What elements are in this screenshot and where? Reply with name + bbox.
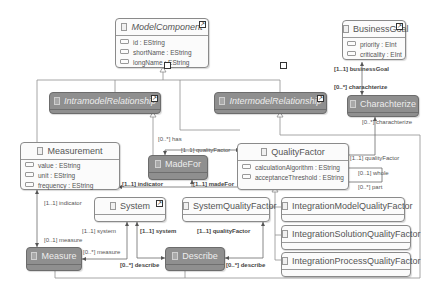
edge-label: [0..*] charachterize — [362, 119, 412, 125]
class-icon — [110, 202, 116, 210]
class-name: Measurement — [47, 146, 102, 156]
class-name: IntegrationProcessQualityFactor — [292, 256, 421, 266]
attribute-icon — [347, 41, 356, 46]
attribute-icon — [120, 49, 129, 54]
class-measurement[interactable]: Measurement value : EString unit : EStri… — [20, 142, 120, 190]
class-name: System — [120, 201, 150, 211]
edge-label: [0..*] describe — [226, 262, 265, 268]
edge-label: [1..1] indicator — [44, 200, 82, 206]
edge-label: [0..*] part — [358, 184, 382, 190]
class-icon — [282, 257, 288, 265]
class-header: Measure — [27, 248, 81, 265]
attribute-icon — [120, 39, 129, 44]
class-header: IntermodelRelationship ↗ — [215, 93, 326, 110]
attribute[interactable]: id : EString — [120, 38, 204, 48]
edge-label: [1..1] businessGoal — [334, 66, 389, 72]
class-integration-solution-quality-factor[interactable]: IntegrationSolutionQualityFactor — [281, 225, 411, 250]
attribute-icon — [242, 174, 251, 179]
attribute-icon — [25, 182, 34, 187]
class-icon — [219, 97, 225, 105]
attribute[interactable]: longName : EString — [120, 58, 204, 68]
attribute-icon — [25, 162, 34, 167]
class-name: SystemQualityFactor — [193, 201, 277, 211]
class-name: IntermodelRelationship — [229, 96, 321, 106]
class-icon — [54, 97, 60, 105]
class-header: IntegrationModelQualityFactor — [282, 198, 404, 215]
class-header: SystemQualityFactor — [183, 198, 269, 215]
external-link-icon[interactable] — [164, 62, 171, 69]
attribute-icon — [242, 164, 251, 169]
attribute[interactable]: frequency : EString — [25, 181, 115, 191]
edge-label: [1..1] indicator — [122, 181, 163, 187]
external-link-icon[interactable]: ↗ — [156, 200, 163, 207]
class-name: Describe — [182, 251, 218, 261]
external-link-icon[interactable] — [280, 62, 287, 69]
external-link-icon[interactable]: ↗ — [151, 95, 158, 102]
class-header: Describe — [166, 248, 224, 265]
external-link-icon[interactable]: ↗ — [199, 21, 206, 28]
class-icon — [37, 147, 43, 155]
class-header: BusinessGoal ↗ — [343, 21, 405, 38]
class-icon — [261, 148, 267, 156]
class-name: MadeFor — [165, 159, 201, 169]
class-measure[interactable]: Measure — [26, 247, 82, 271]
class-header: QualityFactor — [238, 144, 348, 161]
class-name: ModelComponent — [131, 22, 202, 32]
edge-label: [1..1] system — [140, 228, 176, 234]
attribute-icon — [25, 172, 34, 177]
attribute-icon — [120, 59, 129, 64]
edge-label: [1..1] madeFor — [193, 181, 234, 187]
class-header: IntramodelRelationship ↗ — [50, 93, 160, 110]
class-header: IntegrationProcessQualityFactor — [282, 253, 410, 270]
class-name: Measure — [41, 251, 76, 261]
external-link-icon[interactable]: ↗ — [396, 23, 403, 30]
edge-label: [0..*] has — [158, 136, 182, 142]
attribute[interactable]: unit : EString — [25, 171, 115, 181]
class-header: ModelComponent ↗ — [116, 19, 208, 36]
class-intramodel-relationship[interactable]: IntramodelRelationship ↗ — [49, 92, 161, 114]
attribute-icon — [347, 51, 356, 56]
class-business-goal[interactable]: BusinessGoal ↗ priority : EInt criticali… — [342, 20, 406, 60]
attribute[interactable]: calculationAlgorithm : EString — [242, 163, 344, 173]
class-name: IntramodelRelationship — [64, 96, 156, 106]
class-icon — [343, 25, 349, 33]
class-icon — [350, 100, 356, 108]
class-intermodel-relationship[interactable]: IntermodelRelationship ↗ — [214, 92, 327, 114]
class-made-for[interactable]: MadeFor — [148, 155, 208, 180]
external-link-icon[interactable]: ↗ — [317, 95, 324, 102]
class-charachterize[interactable]: Charachterize — [347, 95, 419, 117]
class-header: IntegrationSolutionQualityFactor — [282, 226, 410, 243]
attribute[interactable]: shortName : EString — [120, 48, 204, 58]
edge-label: [1..1] qualityFactor — [350, 155, 399, 161]
class-icon — [155, 160, 161, 168]
edge-label: [0..1] whole — [358, 170, 389, 176]
edge-label: [0..*] describe — [120, 262, 159, 268]
class-icon — [172, 252, 178, 260]
class-icon — [282, 230, 288, 238]
class-icon — [282, 202, 288, 210]
attribute[interactable]: acceptanceThreshold : EString — [242, 173, 344, 183]
class-integration-model-quality-factor[interactable]: IntegrationModelQualityFactor — [281, 197, 405, 222]
class-quality-factor[interactable]: QualityFactor calculationAlgorithm : ESt… — [237, 143, 349, 190]
class-name: Charachterize — [360, 99, 416, 109]
edge-label: [1..1] qualityFactor — [181, 147, 230, 153]
class-system-quality-factor[interactable]: SystemQualityFactor — [182, 197, 270, 222]
class-icon — [31, 252, 37, 260]
class-name: IntegrationSolutionQualityFactor — [292, 229, 421, 239]
class-model-component[interactable]: ModelComponent ↗ id : EString shortName … — [115, 18, 209, 68]
class-integration-process-quality-factor[interactable]: IntegrationProcessQualityFactor — [281, 252, 411, 277]
class-header: System ↗ — [95, 198, 165, 215]
edge-label: [0..*] measure — [83, 249, 120, 255]
class-name: IntegrationModelQualityFactor — [292, 201, 413, 211]
attribute[interactable]: value : EString — [25, 161, 115, 171]
edge-label: [0..1] measure — [44, 237, 82, 243]
class-describe[interactable]: Describe — [165, 247, 225, 271]
class-system[interactable]: System ↗ — [94, 197, 166, 222]
class-icon — [121, 23, 127, 31]
class-header: MadeFor — [149, 156, 207, 173]
edge-label: [1..1] qualityFactor — [197, 228, 250, 234]
class-header: Charachterize — [348, 96, 418, 113]
edge-label: [1..1] system — [82, 228, 116, 234]
attribute[interactable]: criticality : EInt — [347, 50, 401, 60]
attribute[interactable]: priority : EInt — [347, 40, 401, 50]
